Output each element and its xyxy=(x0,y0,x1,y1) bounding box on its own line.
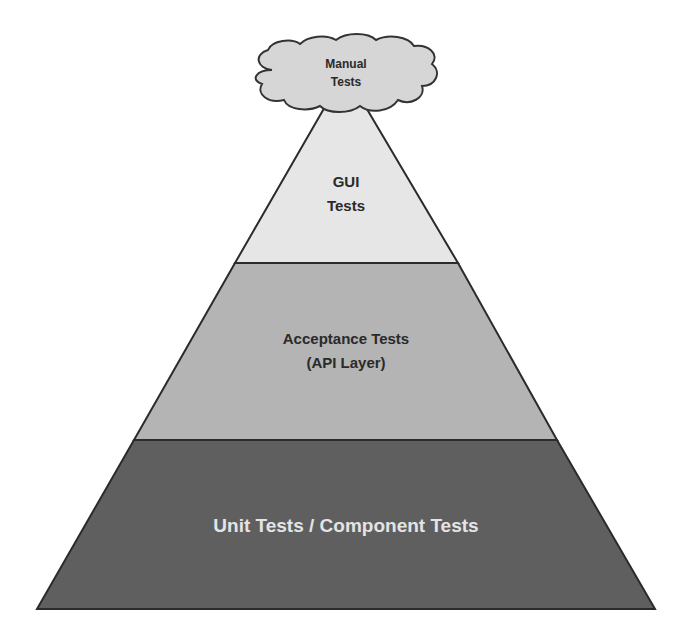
layer-acceptance-tests: Acceptance Tests (API Layer) xyxy=(134,263,557,440)
layer-acceptance-label-line1: Acceptance Tests xyxy=(283,330,409,347)
layer-acceptance-label-line2: (API Layer) xyxy=(306,354,385,371)
layer-acceptance-shape xyxy=(134,263,557,440)
layer-unit-label: Unit Tests / Component Tests xyxy=(213,515,478,536)
test-pyramid-diagram: Unit Tests / Component Tests Acceptance … xyxy=(0,0,689,644)
layer-unit-tests: Unit Tests / Component Tests xyxy=(37,440,655,609)
cloud-label-line1: Manual xyxy=(325,57,366,71)
layer-gui-label-line1: GUI xyxy=(333,173,360,190)
layer-gui-label-line2: Tests xyxy=(327,197,365,214)
cloud-icon xyxy=(256,34,437,112)
manual-tests-cloud: Manual Tests xyxy=(256,34,437,112)
cloud-label-line2: Tests xyxy=(331,75,362,89)
